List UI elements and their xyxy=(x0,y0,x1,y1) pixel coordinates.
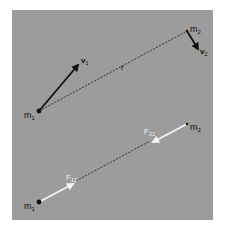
mass2-dot-lower xyxy=(186,123,188,125)
mass2-dot xyxy=(186,30,188,32)
gravitation-diagram: m1 m2 v1 v2 r m2 m1 F21 F12 xyxy=(0,0,226,231)
separation-label: r xyxy=(121,63,124,72)
mass1-dot xyxy=(37,109,42,114)
mass1-dot-lower xyxy=(37,200,42,205)
background-panel xyxy=(12,10,213,220)
